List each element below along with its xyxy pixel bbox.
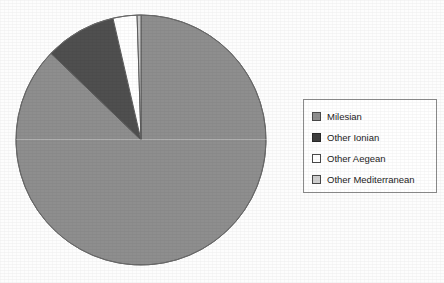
legend-swatch-other-mediterranean bbox=[312, 175, 321, 184]
pie-slice-group bbox=[16, 15, 266, 265]
chart-legend: Milesian Other Ionian Other Aegean Other… bbox=[303, 99, 437, 193]
legend-swatch-milesian bbox=[312, 112, 321, 121]
legend-item-other-mediterranean[interactable]: Other Mediterranean bbox=[312, 169, 436, 190]
legend-item-other-ionian[interactable]: Other Ionian bbox=[312, 127, 436, 148]
legend-item-milesian[interactable]: Milesian bbox=[312, 106, 436, 127]
chart-page: Milesian Other Ionian Other Aegean Other… bbox=[0, 0, 444, 283]
legend-label-other-ionian: Other Ionian bbox=[327, 132, 379, 143]
legend-swatch-other-aegean bbox=[312, 154, 321, 163]
legend-label-other-aegean: Other Aegean bbox=[327, 153, 386, 164]
pie-chart-svg bbox=[15, 14, 267, 266]
legend-item-other-aegean[interactable]: Other Aegean bbox=[312, 148, 436, 169]
legend-swatch-other-ionian bbox=[312, 133, 321, 142]
pie-chart bbox=[15, 14, 267, 266]
legend-label-other-mediterranean: Other Mediterranean bbox=[327, 174, 415, 185]
legend-label-milesian: Milesian bbox=[327, 111, 362, 122]
